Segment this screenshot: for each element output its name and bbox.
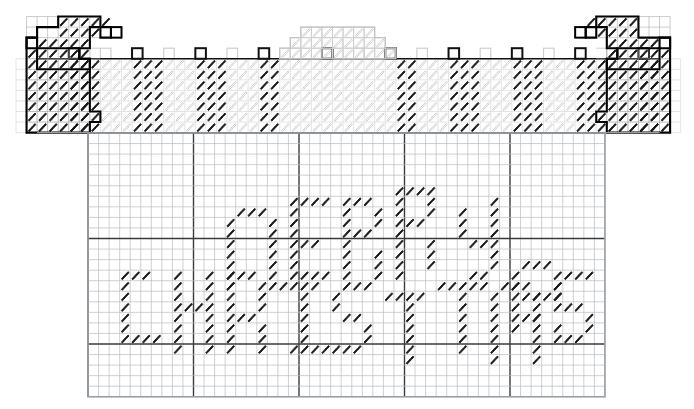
pattern-chart [0, 0, 694, 409]
chart-page: Merry Christmas Cross-Stitch Chart MERRY… [0, 0, 694, 409]
